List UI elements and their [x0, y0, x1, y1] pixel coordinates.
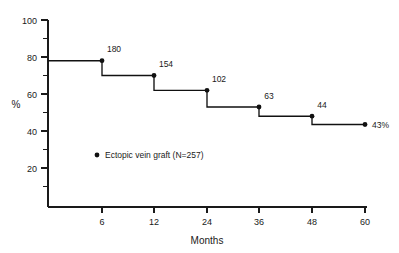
- data-point-month-60: [363, 122, 368, 127]
- data-point-month-24: [205, 88, 210, 93]
- x-tick-label-12: 12: [149, 217, 159, 227]
- x-tick-label-36: 36: [254, 217, 264, 227]
- x-axis-title: Months: [191, 235, 224, 246]
- endpoint-percent-label: 43%: [372, 120, 389, 130]
- legend: Ectopic vein graft (N=257): [95, 150, 204, 160]
- data-point-month-48: [310, 114, 315, 119]
- y-tick-label-60: 60: [27, 90, 37, 100]
- x-tick-label-60: 60: [360, 217, 370, 227]
- y-axis-minor-ticks: [43, 39, 48, 187]
- y-tick-label-40: 40: [27, 127, 37, 137]
- y-tick-label-100: 100: [22, 16, 37, 26]
- x-axis-ticks: [102, 207, 365, 213]
- point-label-month-6: 180: [107, 44, 121, 54]
- legend-marker-icon: [95, 153, 100, 158]
- point-label-month-36: 63: [264, 91, 274, 101]
- y-tick-label-20: 20: [27, 164, 37, 174]
- data-point-month-12: [152, 73, 157, 78]
- x-tick-label-24: 24: [202, 217, 212, 227]
- legend-entry-label: Ectopic vein graft (N=257): [105, 150, 204, 160]
- point-label-month-48: 44: [317, 100, 327, 110]
- data-point-month-36: [257, 105, 262, 110]
- y-tick-label-80: 80: [27, 53, 37, 63]
- y-axis-title: %: [12, 99, 21, 110]
- point-label-month-12: 154: [159, 59, 173, 69]
- point-label-month-24: 102: [212, 74, 226, 84]
- data-point-month-6: [100, 58, 105, 63]
- y-axis-major-ticks: [41, 20, 48, 168]
- chart-canvas: 100 80 60 40 20 % 6 12 24 36 48 60 Month…: [0, 0, 399, 253]
- x-tick-label-48: 48: [307, 217, 317, 227]
- x-tick-label-6: 6: [99, 217, 104, 227]
- kaplan-meier-chart: 100 80 60 40 20 % 6 12 24 36 48 60 Month…: [0, 0, 399, 253]
